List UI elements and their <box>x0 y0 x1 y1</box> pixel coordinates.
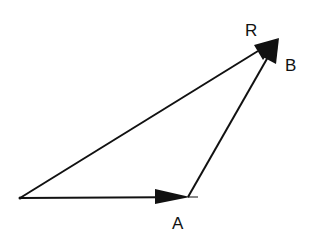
vector-diagram: R B A <box>0 0 313 229</box>
vector-b <box>188 38 279 197</box>
label-r: R <box>245 21 257 40</box>
vector-r <box>20 38 279 198</box>
vector-a <box>20 189 198 204</box>
origin-point <box>19 197 22 200</box>
label-a: A <box>172 214 184 229</box>
label-b: B <box>285 56 296 75</box>
